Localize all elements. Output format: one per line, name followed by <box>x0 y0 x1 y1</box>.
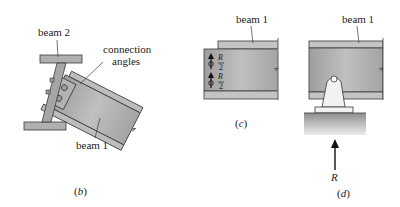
label-angles: angles <box>112 56 140 67</box>
label-beam1-b: beam 1 <box>76 140 108 151</box>
label-beam2: beam 2 <box>38 27 70 38</box>
panel-c-drawing <box>204 26 282 100</box>
caption-b: (b) <box>74 186 87 197</box>
label-connection: connection <box>103 44 151 55</box>
bolt-head-icon <box>50 78 54 82</box>
ground-icon <box>304 113 366 135</box>
panel-d-drawing <box>304 26 389 170</box>
caption-d: (d) <box>337 188 350 199</box>
bolt-head-icon <box>46 90 50 94</box>
label-beam1-c: beam 1 <box>236 14 268 25</box>
force-label-bottom-denominator: 2 <box>219 83 223 91</box>
label-beam1-d: beam 1 <box>342 14 374 25</box>
label-reaction-R: R <box>331 172 338 183</box>
reaction-arrow-icon <box>331 139 339 170</box>
force-label-top-numerator: R <box>218 54 223 62</box>
force-label-bottom-numerator: R <box>218 73 223 81</box>
force-label-top-denominator: 2 <box>219 64 223 72</box>
caption-c: (c) <box>235 118 247 129</box>
